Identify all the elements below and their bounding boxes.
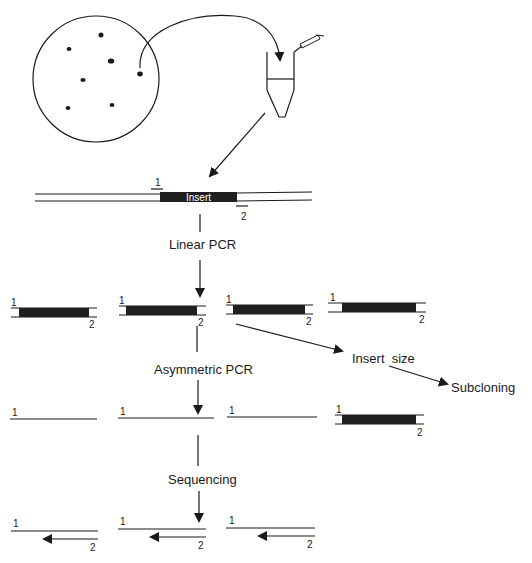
ss-product: 1 [10, 407, 97, 419]
svg-text:1: 1 [229, 515, 235, 526]
ds-product: 1 2 [335, 404, 424, 438]
petri-plate [33, 16, 159, 142]
sequencing-read: 1 2 [11, 518, 98, 553]
ds-product: 1 2 [11, 297, 97, 330]
sequencing-read: 1 2 [226, 515, 315, 550]
step-insert-size: Insert size [352, 351, 415, 366]
svg-text:2: 2 [417, 427, 423, 438]
colony [99, 33, 104, 38]
vector-construct: Insert 1 2 [35, 177, 312, 222]
svg-text:2: 2 [198, 317, 204, 328]
asymmetric-pcr-products: 1 1 1 1 2 [10, 404, 424, 438]
linear-pcr-products: 1 2 1 2 1 2 1 2 [11, 292, 426, 330]
colony [80, 78, 85, 82]
sequencing-read: 1 2 [118, 516, 206, 551]
svg-text:2: 2 [307, 539, 313, 550]
ss-product: 1 [227, 405, 317, 417]
svg-text:2: 2 [89, 319, 95, 330]
ss-product: 1 [118, 406, 214, 418]
ds-product: 1 2 [119, 295, 206, 328]
step-sequencing: Sequencing [168, 472, 237, 487]
svg-text:1: 1 [229, 405, 235, 416]
colony-pcr-sequencing-diagram: Insert 1 2 Linear PCR 1 2 1 2 1 [0, 0, 532, 563]
svg-text:2: 2 [198, 540, 204, 551]
svg-text:1: 1 [330, 292, 336, 303]
svg-text:1: 1 [226, 294, 232, 305]
ds-product: 1 2 [328, 292, 426, 325]
svg-text:1: 1 [11, 297, 17, 308]
svg-text:2: 2 [419, 314, 425, 325]
colony [108, 58, 114, 63]
svg-text:1: 1 [119, 295, 125, 306]
primer-2-label: 2 [241, 211, 247, 222]
step-subcloning: Subcloning [451, 380, 515, 395]
svg-text:2: 2 [90, 542, 96, 553]
svg-text:1: 1 [120, 406, 126, 417]
primer-1-label: 1 [155, 177, 161, 188]
colony [110, 103, 115, 107]
tube-to-vector-arrow [210, 113, 265, 176]
svg-text:1: 1 [13, 518, 19, 529]
step-asymmetric-pcr: Asymmetric PCR [154, 362, 253, 377]
colony [67, 47, 72, 51]
pick-colony-arrow [140, 15, 280, 68]
svg-text:1: 1 [120, 516, 126, 527]
colony [137, 72, 143, 77]
svg-text:1: 1 [336, 404, 342, 415]
svg-text:2: 2 [306, 316, 312, 327]
insert-label: Insert [186, 192, 211, 203]
ds-product: 1 2 [226, 294, 313, 327]
insert-size-arrow [236, 324, 342, 351]
colony [66, 106, 71, 110]
step-linear-pcr: Linear PCR [169, 237, 236, 252]
svg-text:1: 1 [12, 407, 18, 418]
subcloning-arrow [389, 366, 447, 384]
sequencing-products: 1 2 1 2 1 2 [11, 515, 315, 553]
reaction-tube-icon [267, 35, 324, 117]
